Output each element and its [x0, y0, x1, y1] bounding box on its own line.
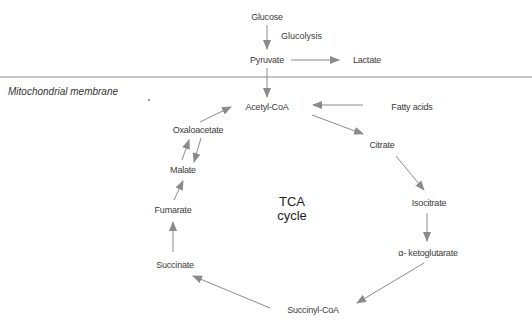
- node-succinyl-coa: Succinyl-CoA: [287, 305, 339, 315]
- arrow-oxaloacetate-malate: [194, 138, 201, 162]
- node-isocitrate: Isocitrate: [412, 198, 447, 208]
- arrows-layer: [0, 0, 532, 332]
- node-glucose: Glucose: [251, 12, 283, 22]
- tca-cycle-label: TCA cycle: [277, 195, 307, 223]
- tca-label-line1: TCA: [277, 195, 307, 209]
- arrow-acetylcoa-citrate: [312, 115, 363, 134]
- arrow-malate-oxaloacetate: [182, 140, 189, 160]
- arrow-oxaloacetate-acetylcoa: [200, 107, 231, 122]
- node-lactate: Lactate: [353, 55, 381, 65]
- tca-cycle-diagram: Glucose Glucolysis Pyruvate Lactate Mito…: [0, 0, 532, 332]
- node-acetyl-coa: Acetyl-CoA: [245, 102, 288, 112]
- arrow-citrate-isocitrate: [396, 156, 424, 190]
- stray-dot: [148, 99, 150, 101]
- node-citrate: Citrate: [369, 140, 394, 150]
- arrow-succinylcoa-succinate: [193, 276, 270, 308]
- arrow-aketoglutarate-succinylcoa: [357, 263, 424, 303]
- node-alpha-ketoglutarate: α- ketoglutarate: [398, 248, 458, 258]
- label-glucolysis: Glucolysis: [281, 31, 322, 41]
- membrane-label: Mitochondrial membrane: [8, 86, 118, 97]
- arrow-fumarate-malate: [174, 181, 183, 200]
- node-fumarate: Fumarate: [155, 205, 192, 215]
- node-oxaloacetate: Oxaloacetate: [173, 125, 224, 135]
- tca-label-line2: cycle: [277, 209, 307, 223]
- node-fatty-acids: Fatty acids: [391, 102, 432, 112]
- node-pyruvate: Pyruvate: [250, 55, 284, 65]
- node-malate: Malate: [170, 165, 196, 175]
- node-succinate: Succinate: [156, 260, 194, 270]
